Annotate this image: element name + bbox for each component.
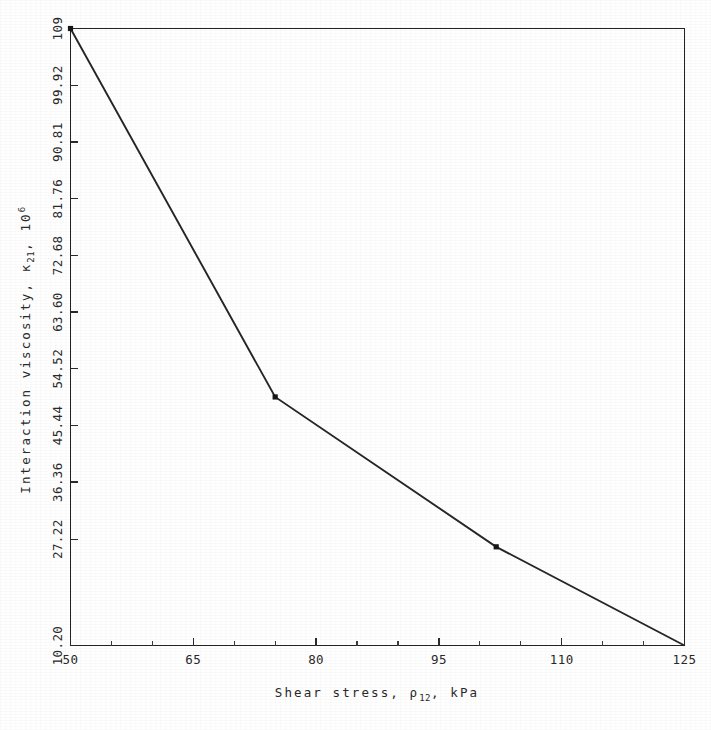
plot-frame [71, 29, 685, 646]
x-axis-ticks [71, 638, 685, 646]
y-tick-label: 81.76 [50, 179, 65, 219]
data-series [68, 26, 685, 646]
y-tick-label: 36.36 [50, 462, 65, 502]
y-tick-label: 54.52 [50, 349, 65, 389]
data-point-marker [273, 394, 278, 399]
x-tick-label: 110 [550, 652, 574, 667]
chart-figure: 10.2027.2236.3645.4454.5263.6072.6881.76… [0, 0, 711, 730]
y-tick-label: 109 [50, 17, 65, 41]
y-tick-label: 63.60 [50, 292, 65, 332]
y-tick-label: 27.22 [50, 519, 65, 559]
x-tick-label: 95 [431, 652, 447, 667]
x-tick-label: 80 [308, 652, 324, 667]
line-chart: 10.2027.2236.3645.4454.5263.6072.6881.76… [0, 0, 711, 730]
series-markers [68, 26, 499, 550]
x-tick-label: 65 [185, 652, 201, 667]
x-axis-tick-labels: 50658095110125 [63, 652, 697, 667]
series-line [71, 29, 685, 646]
y-axis-ticks [71, 29, 78, 646]
x-tick-label: 125 [673, 652, 697, 667]
y-tick-label: 99.92 [50, 65, 65, 105]
y-tick-label: 72.68 [50, 235, 65, 275]
y-axis-title: Interaction viscosity, κ21, 106 [17, 206, 36, 493]
data-point-marker [68, 26, 73, 31]
y-tick-label: 45.44 [50, 406, 65, 446]
y-axis-tick-labels: 10.2027.2236.3645.4454.5263.6072.6881.76… [50, 17, 65, 666]
x-axis-title: Shear stress, ρ12, kPa [275, 685, 479, 703]
data-point-marker [494, 544, 499, 549]
x-tick-label: 50 [63, 652, 79, 667]
y-tick-label: 90.81 [50, 122, 65, 162]
